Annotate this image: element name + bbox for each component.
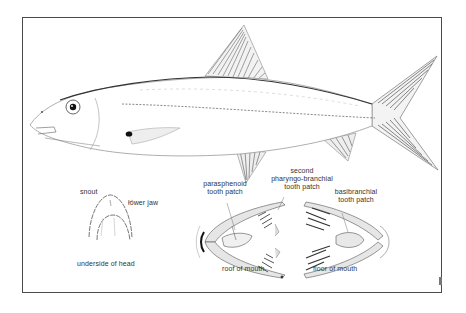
corner-mark bbox=[439, 277, 442, 285]
label-basibranchial-tooth-patch: basibranchial tooth patch bbox=[326, 188, 386, 204]
underside-of-head-drawing bbox=[89, 195, 133, 240]
caudal-fin bbox=[372, 56, 438, 170]
label-roof-of-mouth: roof of mouth bbox=[222, 265, 265, 273]
label-floor-of-mouth: floor of mouth bbox=[313, 265, 357, 273]
fish-body bbox=[30, 77, 375, 156]
label-underside-of-head: underside of head bbox=[77, 260, 135, 268]
label-snout: snout bbox=[80, 188, 98, 196]
label-lower-jaw: lower jaw bbox=[128, 199, 158, 207]
dorsal-fin bbox=[205, 25, 268, 79]
label-parasphenoid-tooth-patch: parasphenoid tooth patch bbox=[195, 180, 255, 196]
